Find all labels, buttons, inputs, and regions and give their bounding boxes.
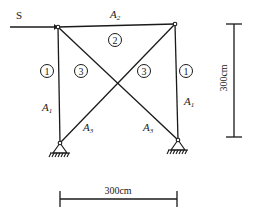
member-left [58,27,60,143]
node-top-left [56,25,60,29]
node-top-right [173,22,177,26]
member-id-diag-left: 3 [79,66,84,77]
member-id-top: 2 [113,35,118,46]
pin-support-left-icon [49,141,70,157]
dimension-width-label: 300cm [104,185,131,196]
member-top [58,24,175,27]
member-id-left: 1 [45,66,50,77]
member-id-diag-right: 3 [142,66,147,77]
member-id-right: 1 [184,66,189,77]
area-label-diag-right: A3 [142,121,154,135]
load-label: S [16,9,22,21]
pin-support-right-icon [167,138,188,154]
member-diagonal-2 [60,24,175,143]
area-label-top: A2 [109,8,121,22]
area-label-diag-left: A3 [82,121,94,135]
area-label-left: A1 [41,101,52,115]
truss-diagram: 2 1 3 3 1 S A2 A1 A1 A3 A3 300cm 300cm [0,0,259,221]
member-right [175,24,178,140]
area-label-right: A1 [183,95,194,109]
dimension-height-label: 300cm [218,64,229,91]
